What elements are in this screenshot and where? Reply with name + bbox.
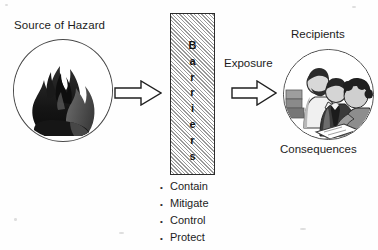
bullet-icon: • [160, 230, 170, 247]
people-group-icon [283, 49, 374, 140]
barrier-letter: r [190, 85, 194, 101]
barrier-letter: a [189, 54, 195, 70]
scan-speck [5, 4, 8, 6]
bullet-icon: • [160, 179, 170, 196]
consequences-label: Consequences [280, 144, 357, 156]
scan-speck [352, 6, 356, 8]
exposure-label: Exposure [224, 58, 273, 70]
hazard-barrier-diagram: Source of Hazard [0, 0, 378, 250]
barrier-actions-list: • Contain • Mitigate • Control • Protect [160, 178, 250, 246]
list-item-label: Protect [170, 229, 205, 246]
source-of-hazard-label: Source of Hazard [14, 20, 105, 32]
list-item-label: Control [170, 212, 205, 229]
list-item: • Contain [160, 178, 250, 195]
scan-speck [14, 218, 17, 221]
bullet-icon: • [160, 196, 170, 213]
barrier-letter: r [190, 133, 194, 149]
block-arrow-right-icon [114, 80, 162, 106]
bullet-icon: • [160, 213, 170, 230]
list-item: • Protect [160, 229, 250, 246]
barrier-letter: B [189, 38, 197, 54]
barrier-letter: e [189, 117, 195, 133]
list-item-label: Mitigate [170, 195, 209, 212]
flame-icon [13, 39, 113, 142]
block-arrow-right-icon [231, 80, 277, 106]
barrier-letter: s [189, 149, 195, 165]
scan-speck [300, 228, 306, 230]
barrier-letter: i [191, 101, 194, 117]
barrier-letter: r [190, 70, 194, 86]
list-item: • Control [160, 212, 250, 229]
list-item: • Mitigate [160, 195, 250, 212]
barriers-box: B a r r i e r s [170, 13, 215, 175]
list-item-label: Contain [170, 178, 208, 195]
recipients-label: Recipients [291, 29, 345, 41]
barriers-vertical-label: B a r r i e r s [171, 38, 214, 164]
scan-speck [119, 232, 124, 234]
